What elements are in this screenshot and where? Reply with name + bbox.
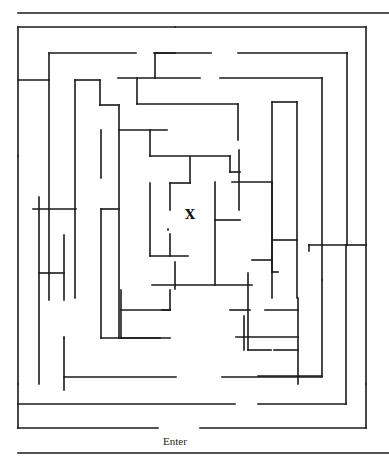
maze-board — [0, 0, 389, 459]
maze-goal-x: X — [185, 207, 195, 222]
maze-walls — [18, 13, 389, 453]
maze-entrance-label: Enter — [163, 435, 187, 447]
